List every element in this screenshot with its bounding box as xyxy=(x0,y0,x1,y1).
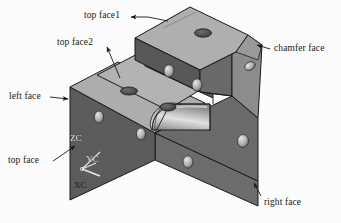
hole-front-a xyxy=(164,65,174,77)
hole-left-b xyxy=(136,128,145,140)
hole-front-b xyxy=(192,79,202,91)
isometric-solid-model xyxy=(0,0,341,223)
axis-label-xc: XC xyxy=(74,181,87,190)
hole-right-a xyxy=(238,135,249,148)
hole-right-b xyxy=(183,156,193,168)
hole-top2-a xyxy=(121,87,138,95)
solid-body xyxy=(70,7,262,218)
leader-left-face xyxy=(50,97,68,99)
label-top-face: top face xyxy=(8,156,39,166)
label-right-face: right face xyxy=(264,198,301,208)
axis-label-yc: YC xyxy=(86,155,99,164)
hole-left-a xyxy=(94,111,103,123)
label-left-face: left face xyxy=(9,92,41,102)
hole-top1-a xyxy=(195,29,212,37)
label-chamfer-face: chamfer face xyxy=(274,44,325,54)
axis-label-zc: ZC xyxy=(70,134,82,143)
label-top-face1: top face1 xyxy=(84,11,120,21)
cad-figure: top face1 top face2 chamfer face left fa… xyxy=(0,0,341,223)
label-top-face2: top face2 xyxy=(57,38,93,48)
leader-top-face1-tail xyxy=(148,17,168,21)
hole-top2-b xyxy=(160,103,176,111)
